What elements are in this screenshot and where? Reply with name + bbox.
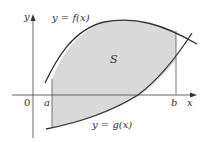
y-axis-label: y <box>23 11 30 22</box>
g-curve-label: y = g(x) <box>91 119 132 130</box>
b-label: b <box>171 97 177 108</box>
x-axis-label: x <box>187 97 193 108</box>
region-s-label: S <box>110 53 118 66</box>
f-curve-label: y = f(x) <box>51 12 90 23</box>
a-label: a <box>44 97 50 108</box>
region-between-curves-diagram: y y = f(x) S 0 a b x y = g(x) <box>0 0 202 142</box>
y-axis-arrow-icon <box>31 14 36 21</box>
origin-label: 0 <box>24 97 30 108</box>
shaded-region-s <box>52 20 176 127</box>
